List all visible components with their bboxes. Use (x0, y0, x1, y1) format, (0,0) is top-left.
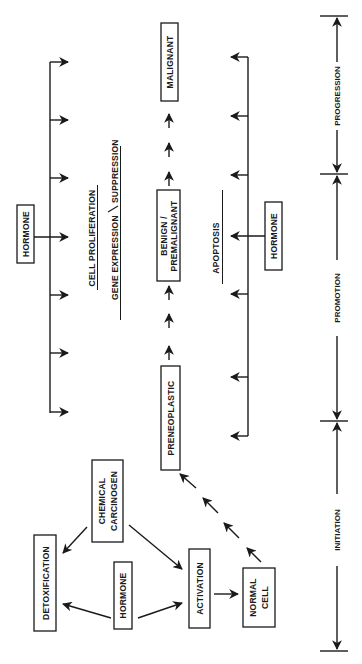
stage-promotion-label: PROMOTION (333, 273, 342, 323)
apoptosis-label: APOPTOSIS (211, 222, 221, 273)
cell-proliferation-label: CELL PROLIFERATION (87, 190, 97, 287)
stage-initiation-label: INITIATION (333, 509, 342, 551)
malignant-label: MALIGNANT (165, 35, 175, 88)
normal-label: NORMAL (248, 578, 258, 617)
chemical-carcinogen-box: CHEMICAL CARCINOGEN (92, 460, 123, 542)
benign-label: BENIGN / (159, 216, 169, 256)
hormone-right-label: HORMONE (269, 213, 279, 259)
premalignant-label: PREMALIGNANT (169, 200, 179, 271)
preneoplastic-box: PRENEOPLASTIC (161, 366, 180, 470)
stage-timeline: PROGRESSION PROMOTION INITIATION (320, 16, 348, 651)
activation-label: ACTIVATION (195, 562, 205, 615)
cell-label: CELL (260, 586, 270, 609)
carcinogenesis-diagram: HORMONE CELL PROLIFERATION GENE EXPRESSI… (0, 0, 362, 664)
malignant-box: MALIGNANT (161, 23, 178, 101)
right-hormone-bracket (231, 57, 266, 436)
detoxification-label: DETOXIFICATION (41, 546, 51, 620)
hormone-bottom-label: HORMONE (118, 572, 128, 618)
hormone-left-label: HORMONE (21, 211, 31, 257)
chemical-label: CHEMICAL (97, 478, 107, 524)
carcinogen-label: CARCINOGEN (109, 471, 119, 531)
activation-box: ACTIVATION (189, 549, 210, 628)
detoxification-box: DETOXIFICATION (34, 535, 56, 631)
stage-progression-label: PROGRESSION (333, 66, 342, 126)
benign-premalignant-box: BENIGN / PREMALIGNANT (157, 190, 180, 281)
hormone-box-left: HORMONE (17, 205, 34, 263)
initiation-arrows (63, 525, 238, 618)
cell-proliferation-label-group: CELL PROLIFERATION GENE EXPRESSION SUPPR… (87, 139, 121, 320)
apoptosis-label-group: APOPTOSIS (211, 190, 223, 284)
hormone-box-bottom: HORMONE (114, 562, 132, 629)
left-hormone-bracket (34, 62, 68, 413)
preneoplastic-label: PRENEOPLASTIC (166, 381, 176, 456)
hormone-box-right: HORMONE (265, 202, 282, 270)
suppression-label: SUPPRESSION (110, 139, 120, 203)
gene-expression-label: GENE EXPRESSION (110, 215, 120, 300)
normal-cell-box: NORMAL CELL (243, 568, 275, 627)
